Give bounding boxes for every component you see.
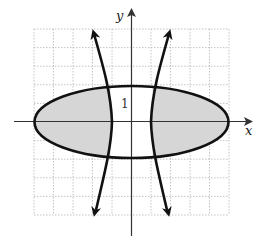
- x-axis-label: x: [245, 123, 253, 138]
- tick-label-one: 1: [121, 97, 129, 111]
- y-axis-label: y: [115, 8, 124, 23]
- graph: y x 1: [0, 0, 263, 250]
- shaded-region: [30, 80, 235, 165]
